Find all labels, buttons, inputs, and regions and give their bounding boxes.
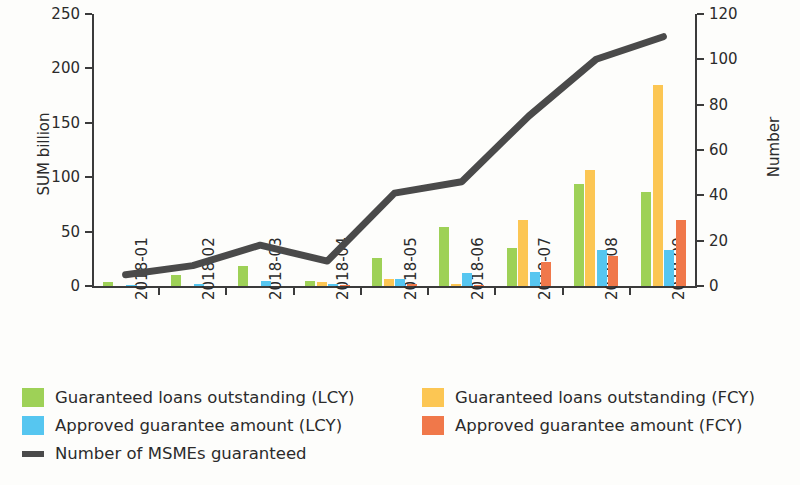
legend-line-icon <box>22 451 44 457</box>
x-tick <box>293 288 295 295</box>
legend-item-number-of-msmes: Number of MSMEs guaranteed <box>22 444 422 463</box>
y-tick-label-right: 120 <box>709 5 738 23</box>
y-tick-right <box>697 149 704 151</box>
y-tick-label-right: 20 <box>709 232 728 250</box>
y-tick-label-left: 0 <box>70 277 80 295</box>
y-tick-label-right: 40 <box>709 186 728 204</box>
y-tick-left <box>85 285 92 287</box>
legend-swatch-icon <box>422 416 444 435</box>
y-tick-label-right: 60 <box>709 141 728 159</box>
y-tick-right <box>697 194 704 196</box>
legend-label: Guaranteed loans outstanding (LCY) <box>55 388 355 407</box>
x-tick <box>562 288 564 295</box>
legend-row: Guaranteed loans outstanding (LCY) Guara… <box>22 388 782 407</box>
y-tick-label-left: 150 <box>51 114 80 132</box>
legend-swatch-icon <box>422 388 444 407</box>
legend-item-approved-guarantee-lcy: Approved guarantee amount (LCY) <box>22 416 422 435</box>
legend-label: Approved guarantee amount (LCY) <box>55 416 342 435</box>
x-tick <box>494 288 496 295</box>
x-tick <box>225 288 227 295</box>
y-tick-label-right: 0 <box>709 277 719 295</box>
x-tick <box>629 288 631 295</box>
legend-label: Number of MSMEs guaranteed <box>55 444 307 463</box>
x-tick <box>158 288 160 295</box>
y-tick-right <box>697 58 704 60</box>
y-tick-label-right: 80 <box>709 96 728 114</box>
legend-item-guaranteed-loans-lcy: Guaranteed loans outstanding (LCY) <box>22 388 422 407</box>
y-tick-left <box>85 122 92 124</box>
legend-item-guaranteed-loans-fcy: Guaranteed loans outstanding (FCY) <box>422 388 755 407</box>
y-tick-right <box>697 285 704 287</box>
legend-label: Guaranteed loans outstanding (FCY) <box>455 388 755 407</box>
legend-swatch-icon <box>22 416 44 435</box>
y-tick-label-right: 100 <box>709 50 738 68</box>
y-tick-left <box>85 13 92 15</box>
y-tick-label-left: 100 <box>51 168 80 186</box>
chart-legend: Guaranteed loans outstanding (LCY) Guara… <box>22 388 782 472</box>
y-tick-right <box>697 240 704 242</box>
legend-row: Approved guarantee amount (LCY) Approved… <box>22 416 782 435</box>
x-tick <box>427 288 429 295</box>
legend-item-approved-guarantee-fcy: Approved guarantee amount (FCY) <box>422 416 742 435</box>
x-tick <box>360 288 362 295</box>
legend-swatch-icon <box>22 388 44 407</box>
chart-figure: SUM billion Number 050100150200250 02040… <box>0 0 800 485</box>
y-tick-label-left: 50 <box>61 223 80 241</box>
y-axis-left-title: SUM billion <box>35 84 53 224</box>
y-tick-label-left: 250 <box>51 5 80 23</box>
line-series-msmes <box>92 14 697 288</box>
y-tick-left <box>85 231 92 233</box>
y-axis-right-title: Number <box>765 87 783 207</box>
plot-area: 050100150200250 020406080100120 2018-012… <box>92 14 697 288</box>
y-tick-left <box>85 67 92 69</box>
y-tick-right <box>697 104 704 106</box>
y-tick-left <box>85 176 92 178</box>
legend-label: Approved guarantee amount (FCY) <box>455 416 742 435</box>
legend-row: Number of MSMEs guaranteed <box>22 444 782 463</box>
y-tick-right <box>697 13 704 15</box>
y-tick-label-left: 200 <box>51 59 80 77</box>
